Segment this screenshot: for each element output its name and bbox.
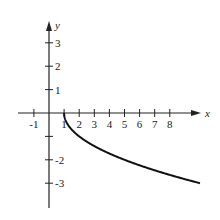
y-tick-label: 2	[55, 60, 61, 72]
y-axis-label: y	[54, 19, 60, 31]
x-tick-label: 8	[167, 118, 173, 130]
x-tick-label: 5	[122, 118, 128, 130]
x-tick-label: 6	[137, 118, 143, 130]
x-axis-arrow-icon	[191, 110, 201, 116]
y-tick-label: -3	[55, 177, 65, 189]
y-tick-label: 1	[55, 84, 61, 96]
x-tick-label: 7	[152, 118, 158, 130]
y-tick-label: 3	[55, 37, 61, 49]
y-tick-label: -2	[55, 154, 64, 166]
x-tick-label: 3	[92, 118, 98, 130]
x-tick-label: 4	[107, 118, 113, 130]
x-tick-label: 2	[76, 118, 82, 130]
x-axis-label: x	[204, 107, 210, 119]
function-graph: -112345678321-2-3 x y	[0, 0, 220, 220]
y-axis-arrow-icon	[46, 21, 52, 31]
x-tick-label: -1	[29, 118, 38, 130]
curve-series	[64, 113, 200, 183]
